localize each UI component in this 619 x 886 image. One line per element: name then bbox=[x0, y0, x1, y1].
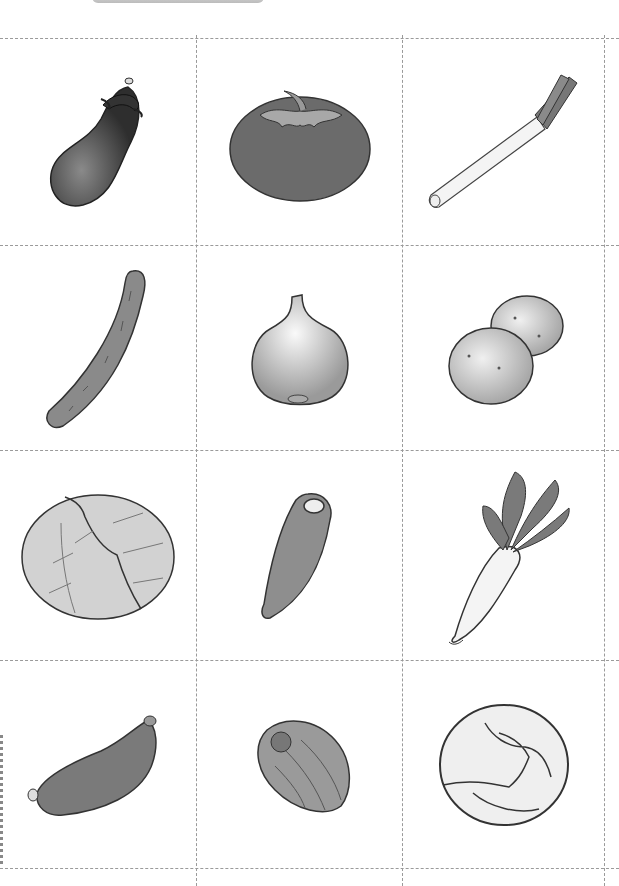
daikon-icon bbox=[429, 458, 579, 653]
card-onion[interactable]: onion bbox=[197, 246, 402, 450]
potato-icon bbox=[439, 286, 569, 411]
header-tab bbox=[92, 0, 264, 3]
cucumber-icon bbox=[33, 261, 163, 436]
cut-line-horizontal bbox=[0, 868, 619, 869]
card-eggplant[interactable]: eggplant bbox=[0, 39, 196, 245]
tomato-icon bbox=[220, 77, 380, 207]
carrot-icon bbox=[250, 486, 350, 626]
onion-icon bbox=[240, 283, 360, 413]
card-cabbage[interactable]: cabbage bbox=[0, 451, 196, 660]
cut-line-vertical bbox=[604, 35, 605, 886]
cabbage-icon bbox=[13, 483, 183, 628]
card-tomato[interactable]: tomato bbox=[197, 39, 402, 245]
card-carrot[interactable]: carrot bbox=[197, 451, 402, 660]
card-potato[interactable]: potato bbox=[403, 246, 604, 450]
card-lettuce[interactable]: lettuce bbox=[403, 661, 604, 868]
card-sweet-potato[interactable]: sweet potato bbox=[0, 661, 196, 868]
card-daikon[interactable]: daikon radish bbox=[403, 451, 604, 660]
card-bell-pepper[interactable]: bell pepper bbox=[197, 661, 402, 868]
bell-pepper-icon bbox=[245, 710, 355, 820]
lettuce-icon bbox=[429, 697, 579, 832]
sweet-potato-icon bbox=[23, 707, 173, 822]
green-onion-icon bbox=[419, 67, 589, 217]
eggplant-icon bbox=[33, 67, 163, 217]
card-green-onion[interactable]: green onion bbox=[403, 39, 604, 245]
card-cucumber[interactable]: cucumber bbox=[0, 246, 196, 450]
